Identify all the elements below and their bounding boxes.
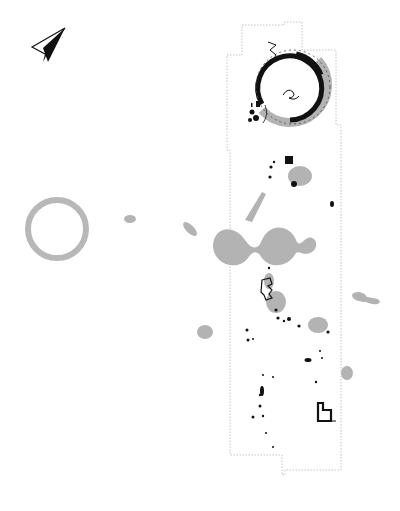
grey-features — [124, 166, 380, 380]
black-features-upper — [248, 101, 260, 122]
excavation-plan — [0, 0, 400, 511]
ring-feature — [28, 200, 86, 258]
ring-ditch — [256, 42, 330, 124]
north-arrow-icon — [32, 28, 65, 62]
structure-feature — [318, 403, 331, 421]
